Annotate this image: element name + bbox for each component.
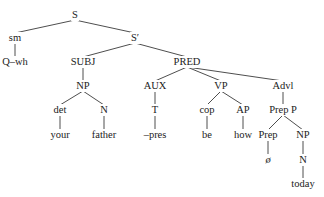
tree-node-how: how <box>233 129 253 141</box>
tree-node-prepp: Prep P <box>268 104 298 116</box>
edge-NP1-N1 <box>83 91 104 105</box>
tree-node-your: your <box>49 129 70 141</box>
edge-S-sm <box>15 20 75 33</box>
tree-node-s: S <box>71 9 79 21</box>
tree-node-qwh: Q–wh <box>1 56 29 68</box>
edge-Sbar-SUBJ <box>83 43 135 57</box>
edge-PRED-Advl <box>187 67 283 81</box>
tree-node-be: be <box>201 129 213 141</box>
tree-node-aux: AUX <box>143 80 168 92</box>
tree-node-n2: N <box>298 154 308 166</box>
tree-node-ap: AP <box>235 104 250 116</box>
tree-node-prep: Prep <box>257 129 278 141</box>
tree-node-det: det <box>53 104 68 116</box>
tree-node-null: ø <box>264 154 271 166</box>
tree-node-father: father <box>91 129 117 141</box>
tree-node-t: T <box>151 104 159 116</box>
tree-node-np2: NP <box>295 129 310 141</box>
tree-node-sbar: S′ <box>130 32 140 44</box>
tree-node-vp: VP <box>213 80 228 92</box>
edge-S-Sbar <box>75 20 135 33</box>
tree-node-cop: cop <box>198 104 215 116</box>
tree-node-pres: –pres <box>143 129 168 141</box>
tree-node-today: today <box>290 178 315 190</box>
tree-node-sm: sm <box>8 32 22 44</box>
tree-node-pred: PRED <box>173 56 202 68</box>
tree-edges <box>0 0 324 197</box>
edge-NP1-det <box>60 91 83 105</box>
edge-PrepP-NP2 <box>283 115 303 130</box>
edge-PRED-AUX <box>155 67 187 81</box>
edge-VP-cop <box>207 91 221 105</box>
tree-node-subj: SUBJ <box>70 56 97 68</box>
edge-Sbar-PRED <box>135 43 187 57</box>
syntax-tree-diagram: SsmQ–whS′SUBJNPdetyourNfatherPREDAUXT–pr… <box>0 0 324 197</box>
tree-node-n1: N <box>99 104 109 116</box>
tree-node-advl: Advl <box>272 80 295 92</box>
edge-VP-AP <box>221 91 243 105</box>
edge-PrepP-Prep <box>268 115 283 130</box>
tree-node-np1: NP <box>75 80 90 92</box>
